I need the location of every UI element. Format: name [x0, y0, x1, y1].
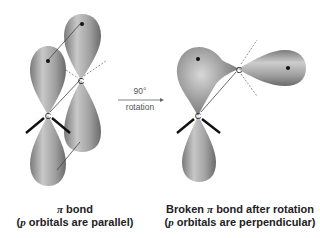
left-atom-front-label: C: [45, 111, 52, 121]
front-p-orbital-upper-lobe: [30, 46, 66, 115]
electron-dot-front: [46, 59, 50, 63]
left-atom-back-label: C: [78, 76, 85, 86]
right-atom-front-label: C: [195, 111, 202, 121]
electron-dot-front: [196, 57, 200, 61]
back-p-orbital-right-lobe: [238, 50, 306, 86]
rotation-angle-label: 90°: [120, 86, 160, 96]
left-caption-title: π bond: [0, 203, 150, 216]
left-caption: π bond (p orbitals are parallel): [0, 203, 150, 229]
electron-dot-back: [286, 66, 290, 70]
right-caption: Broken π bond after rotation (p orbitals…: [160, 203, 320, 229]
right-atom-back-label: C: [236, 65, 243, 75]
electron-dot-back: [80, 22, 84, 26]
front-p-orbital-upper-lobe: [177, 47, 238, 116]
right-caption-title: Broken π bond after rotation: [160, 203, 320, 216]
rotation-label: rotation: [120, 102, 160, 112]
right-caption-subtitle: (p orbitals are perpendicular): [160, 216, 320, 229]
left-caption-subtitle: (p orbitals are parallel): [0, 216, 150, 229]
left-pi-bond-diagram: [26, 14, 106, 186]
